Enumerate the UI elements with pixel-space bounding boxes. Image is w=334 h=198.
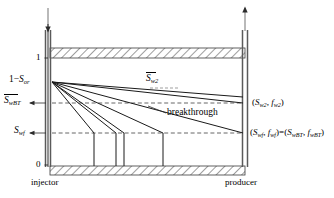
y-label-one-minus-sor: 1−Sor (9, 75, 30, 85)
bedrock-hatch-bottom (50, 166, 245, 175)
producer-well (242, 7, 247, 168)
pt-lower-comma: , (263, 127, 265, 137)
sw2-overbar-group: Sw2 (146, 74, 158, 84)
dashed-level-swf (29, 131, 243, 136)
y-tick-label-one: 1 (36, 53, 41, 62)
injector-well-label: injector (31, 178, 59, 187)
one-minus-sor-subscript: or (24, 78, 30, 85)
y-tick-label-zero: 0 (36, 160, 41, 169)
breakthrough-leader (148, 106, 166, 113)
annotation-sw2-average: Sw2 (146, 74, 158, 84)
figure-canvas (0, 0, 334, 198)
profile-line-2 (52, 82, 116, 166)
sw2-overbar (146, 72, 156, 73)
profile-line-6 (52, 82, 243, 103)
y-label-swf: Swf (14, 126, 25, 136)
producer-well-label: producer (225, 178, 257, 187)
point-label-sw2-fw2: (Sw2, fw2) (252, 98, 284, 108)
swbt-overbar (4, 94, 17, 95)
swbt-subscript: wBT (9, 99, 21, 106)
pt-upper-sub1: w2 (260, 102, 267, 108)
pt-upper-sub2: w2 (274, 102, 281, 108)
profile-line-1 (52, 82, 94, 166)
pt-lower-close-2: ) (321, 127, 324, 137)
pt-lower-sub4: wBT (310, 132, 321, 138)
pt-lower-sub3: wBT (292, 132, 303, 138)
pt-lower-comma-2: , (303, 127, 305, 137)
producer-flow-arrow (242, 7, 247, 13)
one-minus-sor-lead: 1− (9, 74, 19, 84)
pt-upper-close: ) (281, 97, 284, 107)
pt-upper-comma: , (267, 97, 269, 107)
swf-subscript: wf (19, 129, 25, 136)
profile-line-4 (52, 82, 163, 166)
swbt-overbar-group: SwBT (4, 96, 21, 106)
saturation-profile-figure: 1 0 1−Sor SwBT Swf Sw2 breakthrough (Sw2… (0, 0, 334, 198)
sw2-subscript: w2 (151, 77, 159, 84)
annotation-breakthrough: breakthrough (167, 108, 218, 118)
saturation-profile-lines (52, 82, 243, 166)
y-label-swbt-average: SwBT (4, 96, 21, 106)
caprock-hatch-top (50, 48, 245, 58)
point-label-swf-fwf-equals-swbt-fwbt: (Swf, fwf)=(SwBT, fwBT) (250, 128, 324, 138)
